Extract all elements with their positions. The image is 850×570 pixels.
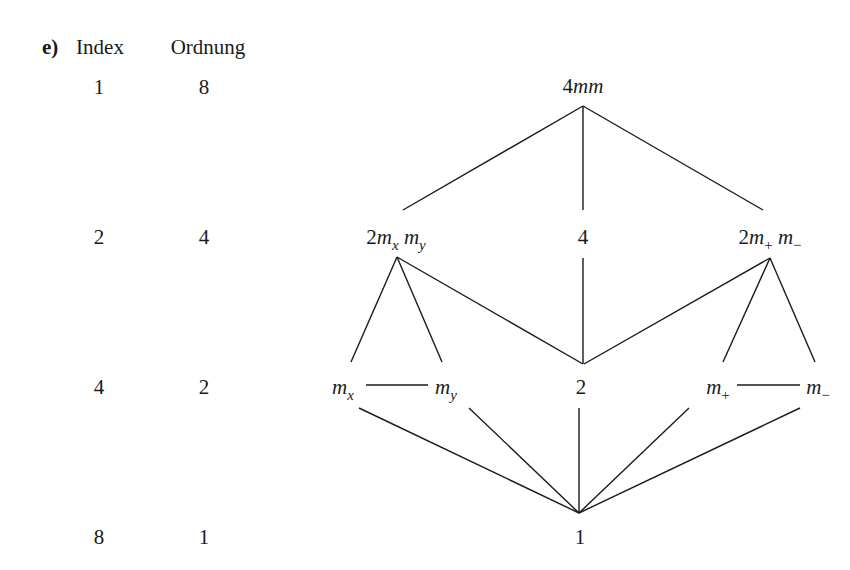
- edge-my-1: [469, 408, 579, 513]
- row-order: 4: [199, 227, 210, 248]
- edge-2mxmy-mx: [351, 257, 397, 362]
- row-order: 2: [199, 377, 210, 398]
- subgroup-lattice-edges: [0, 0, 850, 570]
- edge-mminus-1: [579, 408, 800, 513]
- edge-2mpmm-mplus: [723, 258, 770, 362]
- node-mminus: m−: [806, 377, 830, 398]
- row-index: 8: [94, 527, 105, 548]
- node-4mm: 4mm: [563, 76, 604, 97]
- node-4: 4: [578, 227, 589, 248]
- row-order: 8: [199, 77, 210, 98]
- edge-2mxmy-2: [397, 257, 583, 364]
- node-mx: mx: [332, 377, 354, 398]
- node-my: my: [435, 377, 457, 398]
- node-2mplusmminus: 2m+ m−: [738, 227, 801, 248]
- edge-mplus-1: [579, 408, 689, 513]
- node-1: 1: [575, 527, 586, 548]
- index-header: Index: [76, 37, 124, 58]
- row-index: 1: [94, 77, 105, 98]
- edge-2mpmm-2: [584, 258, 770, 364]
- edge-4mm-2mpmm: [583, 106, 763, 210]
- edge-4mm-2mxmy: [403, 106, 583, 210]
- row-order: 1: [199, 527, 210, 548]
- row-index: 2: [94, 227, 105, 248]
- edge-mx-1: [359, 408, 579, 513]
- edge-2mpmm-mminus: [770, 258, 815, 362]
- node-2mxmy: 2mx my: [366, 227, 425, 248]
- node-mplus: m+: [706, 377, 730, 398]
- row-index: 4: [94, 377, 105, 398]
- edge-2mxmy-my: [397, 257, 442, 362]
- node-2: 2: [576, 377, 587, 398]
- part-label: e): [42, 37, 58, 58]
- order-header: Ordnung: [171, 37, 246, 58]
